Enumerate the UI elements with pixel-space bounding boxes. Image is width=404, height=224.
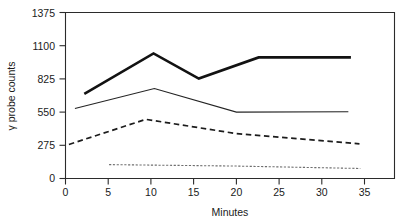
x-tick-label-35: 35 <box>359 186 371 198</box>
y-axis-ticks <box>60 13 66 179</box>
plot-frame <box>66 13 395 179</box>
y-axis-title-label: γ probe counts <box>5 62 17 131</box>
data-series-group <box>69 53 360 168</box>
series-thick-line <box>84 53 351 94</box>
x-tick-label-20: 20 <box>231 186 243 198</box>
y-tick-label-1100: 1100 <box>32 40 55 52</box>
x-tick-label-10: 10 <box>145 186 157 198</box>
y-axis-tick-labels: 0 275 550 825 1100 1375 <box>32 7 56 185</box>
line-chart: 0 275 550 825 1100 1375 γ probe counts 0… <box>0 0 404 224</box>
y-tick-label-825: 825 <box>37 73 55 85</box>
series-dotted-line <box>109 165 360 169</box>
y-tick-label-550: 550 <box>37 106 55 118</box>
x-tick-label-0: 0 <box>63 186 69 198</box>
x-axis-title-label: Minutes <box>212 206 249 218</box>
x-tick-label-5: 5 <box>105 186 111 198</box>
y-axis-title: γ probe counts <box>5 62 17 131</box>
y-tick-label-0: 0 <box>49 172 55 184</box>
y-tick-label-275: 275 <box>37 139 55 151</box>
x-tick-label-15: 15 <box>188 186 200 198</box>
x-axis-ticks <box>66 179 365 185</box>
x-tick-label-25: 25 <box>273 186 285 198</box>
series-dashed-line <box>69 119 360 144</box>
x-axis-tick-labels: 0 5 10 15 20 25 30 35 <box>63 186 371 198</box>
chart-canvas: 0 275 550 825 1100 1375 γ probe counts 0… <box>0 0 404 224</box>
series-thin-line <box>75 89 348 113</box>
y-tick-label-1375: 1375 <box>32 7 56 19</box>
x-tick-label-30: 30 <box>316 186 328 198</box>
